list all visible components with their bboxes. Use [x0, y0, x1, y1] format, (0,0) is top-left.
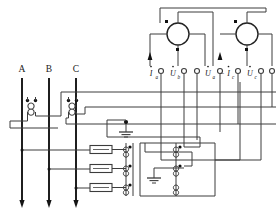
wattmeter-1-polarity-mark-upper [165, 20, 168, 23]
junction-dot-tap-b [48, 168, 51, 171]
terminal-label-ua-base: U [205, 69, 212, 78]
wattmeter-2-polarity-mark-lower [245, 48, 248, 51]
vt-primary-dot-3 [128, 183, 131, 186]
current-arrow-ic [218, 52, 223, 60]
bus-arrow-b [46, 200, 51, 208]
terminal-6[interactable] [259, 69, 264, 74]
terminal-3[interactable] [195, 69, 200, 74]
terminal-label-uc-base: U [247, 69, 254, 78]
terminal-label-ia-base: I [149, 69, 153, 78]
phase-label-a: A [19, 64, 26, 74]
phase-label-group: A B C [19, 64, 80, 74]
terminal-label-ua-overdot [207, 66, 209, 68]
terminal-label-uc: U c [247, 66, 257, 80]
wattmeter-1-body[interactable] [167, 23, 189, 45]
vt-enclosure [140, 143, 215, 196]
terminal-label-negative-ic: − I c [219, 66, 235, 80]
vt-sec-to-meter-wire [215, 82, 240, 160]
current-arrow-ia [148, 52, 153, 60]
wattmeter-2-body[interactable] [236, 23, 258, 45]
terminal-5[interactable] [236, 69, 241, 74]
terminal-label-ia-sub: a [156, 74, 159, 80]
schematic-canvas: A B C I a U b U a [0, 0, 276, 217]
voltage-transformer [123, 143, 215, 196]
terminal-label-ic-base: I [226, 69, 230, 78]
terminal-2[interactable] [182, 69, 187, 74]
terminal-label-ub: U b [170, 66, 180, 80]
terminal-label-ic-minus: − [219, 69, 224, 78]
ground-symbol-upper [119, 120, 133, 137]
terminal-label-uc-overdot [249, 66, 251, 68]
ground-1-junction [124, 120, 128, 124]
wattmeter-1-polarity-mark-lower [176, 48, 179, 51]
bus-arrow-c [73, 200, 78, 208]
wattmeter-2[interactable] [220, 12, 272, 60]
terminal-label-ic-sub: c [232, 74, 235, 80]
ct-c-secondary-out [77, 107, 277, 114]
terminal-label-ub-overdot [172, 66, 174, 68]
terminal-label-uc-sub: c [255, 74, 258, 80]
circuit-diagram: A B C I a U b U a [0, 0, 276, 217]
ct-c-coil [69, 103, 75, 115]
junction-dot-tap-a [21, 149, 24, 152]
ground-symbol-lower [147, 168, 161, 183]
vt-secondary-dot-2 [178, 164, 181, 167]
terminal-label-ic-overdot [228, 66, 230, 68]
vt-secondary-dot-1 [178, 145, 181, 148]
bus-arrow-a [19, 200, 24, 208]
vt-primary-dot-2 [128, 164, 131, 167]
voltage-tap-wires [21, 149, 91, 190]
phase-label-b: B [46, 64, 52, 74]
terminal-label-ua-sub: a [213, 74, 216, 80]
terminal-label-ua: U a [205, 66, 215, 80]
terminal-7[interactable] [270, 69, 275, 74]
fuse-group [90, 146, 126, 192]
ct-a-secondary-return [10, 112, 58, 128]
terminal-1[interactable] [159, 69, 164, 74]
wattmeter-1[interactable] [150, 12, 205, 60]
terminal-label-group: I a U b U a − I c [149, 66, 258, 80]
ct-a-coil [28, 103, 34, 115]
terminal-block [159, 69, 275, 74]
current-arrow-markers [148, 52, 223, 60]
phase-bus-group [19, 78, 78, 208]
terminal-label-ia: I a [149, 66, 159, 80]
vt-sec-wire-2 [145, 143, 192, 166]
phase-label-c: C [73, 64, 79, 74]
wattmeter-2-polarity-mark-upper [234, 20, 237, 23]
vt-primary-dot-1 [128, 145, 131, 148]
junction-dot-tap-c [75, 187, 78, 190]
ct-c-secondary-return [66, 112, 276, 124]
terminal-label-ub-base: U [170, 69, 177, 78]
terminal-label-ia-overdot [150, 66, 152, 68]
terminal-label-ub-sub: b [178, 74, 181, 80]
